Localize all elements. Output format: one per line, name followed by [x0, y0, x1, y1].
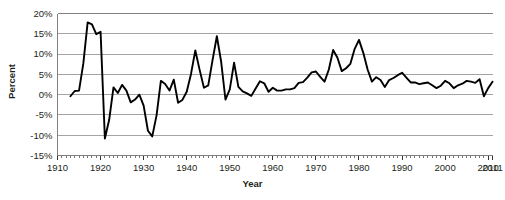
- svg-text:-10%: -10%: [30, 130, 53, 141]
- svg-text:5%: 5%: [39, 69, 53, 80]
- svg-text:1920: 1920: [90, 162, 111, 173]
- svg-text:-5%: -5%: [36, 109, 53, 120]
- svg-text:1970: 1970: [305, 162, 326, 173]
- svg-text:-15%: -15%: [30, 150, 53, 161]
- data-series-group: [70, 22, 492, 138]
- svg-text:2000: 2000: [435, 162, 456, 173]
- svg-text:0%: 0%: [39, 89, 53, 100]
- svg-text:1960: 1960: [262, 162, 283, 173]
- x-tick-labels-group: 1910192019301940195019601970198019902000…: [47, 162, 503, 173]
- x-major-ticks-group: [58, 156, 493, 161]
- chart-plot-area: 20%15%10%5%0%-5%-10%-15% 191019201930194…: [0, 0, 505, 200]
- y-axis-title: Percent: [6, 52, 17, 112]
- svg-text:1950: 1950: [219, 162, 240, 173]
- svg-text:1990: 1990: [391, 162, 412, 173]
- svg-text:1940: 1940: [176, 162, 197, 173]
- svg-text:1980: 1980: [348, 162, 369, 173]
- y-tick-labels-group: 20%15%10%5%0%-5%-10%-15%: [30, 8, 53, 161]
- svg-text:10%: 10%: [33, 48, 53, 59]
- svg-text:2011: 2011: [482, 162, 502, 173]
- svg-text:1910: 1910: [47, 162, 68, 173]
- inflation-line-chart: 20%15%10%5%0%-5%-10%-15% 191019201930194…: [0, 0, 505, 200]
- x-axis-title: Year: [0, 178, 505, 189]
- svg-text:15%: 15%: [33, 28, 53, 39]
- svg-text:1930: 1930: [133, 162, 154, 173]
- svg-text:20%: 20%: [33, 8, 53, 19]
